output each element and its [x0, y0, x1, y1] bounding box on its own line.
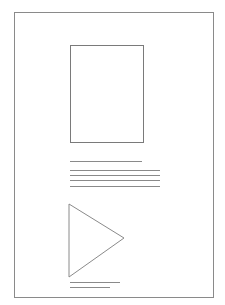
caption-lines-block [70, 283, 120, 288]
page-frame [15, 13, 214, 298]
wireframe-canvas [0, 0, 225, 305]
image-placeholder [71, 46, 144, 143]
play-triangle-icon [69, 204, 124, 277]
text-lines-block [70, 162, 160, 187]
